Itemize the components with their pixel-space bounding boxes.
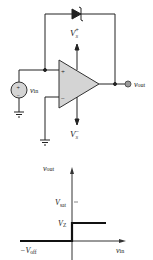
- arrow-down-icon: [75, 119, 79, 125]
- ground-icon: [14, 112, 24, 117]
- plus-sign: +: [61, 68, 65, 76]
- x-axis-arrow-icon: [119, 239, 126, 243]
- zener-diode-icon: [72, 7, 83, 21]
- vz-label: VZ: [58, 219, 67, 228]
- voff-label: −Voff: [20, 246, 37, 255]
- graph-y-label: vout: [43, 164, 55, 173]
- y-axis-arrow-icon: [70, 167, 74, 174]
- vs-neg-label: VS−: [70, 128, 79, 140]
- vsat-label: Vsat: [55, 198, 66, 208]
- vs-pos-label: VS+: [70, 27, 79, 39]
- junction-dot: [44, 69, 47, 72]
- graph-x-label: vin: [116, 246, 124, 255]
- minus-sign: −: [61, 95, 65, 103]
- vout-label: vout: [134, 80, 146, 89]
- opamp-icon: [59, 60, 99, 108]
- arrow-up-icon: [75, 44, 79, 50]
- vin-label: vin: [30, 86, 38, 95]
- junction-dot: [114, 83, 117, 86]
- diagram-canvas: + − + − vin VS+ VS− vout vout Vsat VZ −V…: [0, 0, 153, 260]
- output-terminal-icon: [125, 81, 131, 87]
- minus-input-wire: [45, 97, 59, 140]
- plus-input-wire: [19, 70, 59, 82]
- transfer-graph: vout Vsat VZ −Voff vin: [20, 164, 126, 260]
- ground-icon: [40, 140, 50, 145]
